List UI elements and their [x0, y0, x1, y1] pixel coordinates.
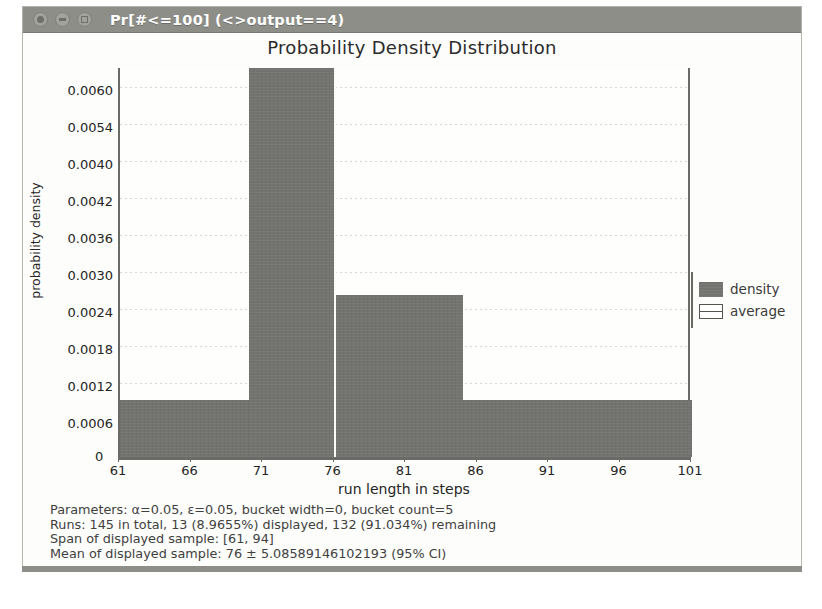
y-tick-label: 0.0040 — [68, 156, 114, 171]
x-axis-ticks: 6166717681869196101 — [118, 463, 690, 483]
close-icon[interactable] — [33, 12, 48, 27]
x-tick-mark — [690, 457, 691, 462]
x-tick-mark — [261, 457, 262, 462]
legend-item-density: density — [699, 278, 799, 300]
y-tick-label: 0.0006 — [68, 415, 114, 430]
window-controls — [33, 12, 92, 27]
stats-block: Parameters: α=0.05, ε=0.05, bucket width… — [50, 503, 770, 561]
plot-area: Probability Density Distribution 0.00060… — [23, 33, 801, 573]
stats-runs: Runs: 145 in total, 13 (8.9655%) display… — [50, 518, 770, 533]
y-tick-label: 0.0024 — [68, 304, 114, 319]
gridline — [120, 87, 688, 88]
y-tick-label: 0.0060 — [68, 82, 114, 97]
y-tick-label: 0.0030 — [68, 267, 114, 282]
chart-title: Probability Density Distribution — [23, 37, 801, 58]
x-tick-label: 76 — [324, 463, 341, 478]
window-title: Pr[#<=100] (<>output==4) — [110, 12, 344, 28]
x-tick-label: 101 — [678, 463, 703, 478]
legend-item-average: average — [699, 300, 799, 322]
legend-divider — [691, 272, 693, 328]
maximize-icon[interactable] — [77, 12, 92, 27]
x-tick-mark — [547, 457, 548, 462]
legend-swatch-average-icon — [699, 304, 723, 319]
average-line — [334, 68, 336, 457]
gridline — [120, 235, 688, 236]
plot-canvas — [118, 68, 690, 457]
chart-legend: density average — [699, 278, 799, 322]
x-tick-mark — [118, 457, 119, 462]
x-tick-label: 81 — [396, 463, 413, 478]
plot-window: Pr[#<=100] (<>output==4) Probability Den… — [22, 6, 802, 572]
window-bottom-edge — [22, 566, 802, 572]
window-titlebar[interactable]: Pr[#<=100] (<>output==4) — [23, 7, 801, 33]
y-tick-label: 0.0036 — [68, 230, 114, 245]
x-tick-mark — [404, 457, 405, 462]
gridline — [120, 272, 688, 273]
x-tick-mark — [476, 457, 477, 462]
y-tick-label: 0.0042 — [68, 193, 114, 208]
x-tick-mark — [333, 457, 334, 462]
gridline — [120, 124, 688, 125]
x-tick-label: 71 — [253, 463, 270, 478]
x-tick-mark — [190, 457, 191, 462]
x-tick-label: 96 — [610, 463, 627, 478]
y-tick-label: 0.0012 — [68, 378, 114, 393]
y-axis-zero-tick: 0 — [95, 449, 103, 464]
stats-mean: Mean of displayed sample: 76 ± 5.0858914… — [50, 547, 770, 562]
gridline — [120, 161, 688, 162]
x-tick-mark — [619, 457, 620, 462]
minimize-icon[interactable] — [55, 12, 70, 27]
histogram-bar — [120, 400, 249, 457]
histogram-bar — [335, 295, 464, 457]
y-tick-label: 0.0018 — [68, 341, 114, 356]
x-tick-label: 86 — [467, 463, 484, 478]
gridline — [120, 198, 688, 199]
x-tick-label: 66 — [181, 463, 198, 478]
histogram-bar — [463, 400, 692, 457]
y-axis-label: probability density — [28, 156, 43, 326]
x-tick-label: 91 — [539, 463, 556, 478]
stats-parameters: Parameters: α=0.05, ε=0.05, bucket width… — [50, 503, 770, 518]
screenshot-root: Pr[#<=100] (<>output==4) Probability Den… — [0, 0, 822, 609]
y-tick-label: 0.0054 — [68, 119, 114, 134]
x-tick-label: 61 — [110, 463, 127, 478]
legend-swatch-density-icon — [699, 282, 723, 297]
legend-label-average: average — [730, 303, 785, 319]
histogram-bar — [249, 68, 335, 457]
x-axis-label: run length in steps — [118, 481, 690, 497]
legend-label-density: density — [730, 281, 780, 297]
stats-span: Span of displayed sample: [61, 94] — [50, 532, 770, 547]
